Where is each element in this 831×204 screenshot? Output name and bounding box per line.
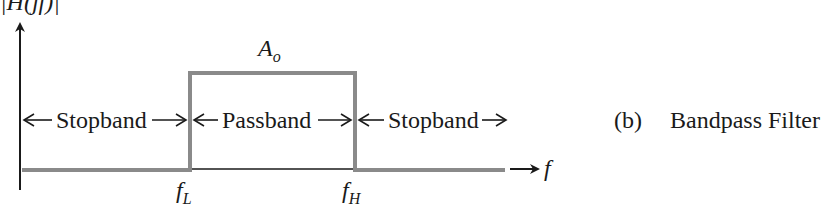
caption-tag: (b) <box>614 108 642 132</box>
diagram-canvas <box>0 0 831 204</box>
amplitude-label: Ao <box>258 36 281 60</box>
amplitude-main: A <box>258 35 273 61</box>
y-axis-label: |H(jf)| <box>0 0 60 14</box>
cutoff-high-label: fH <box>342 178 360 202</box>
amplitude-sub: o <box>273 48 281 65</box>
stopband-low-label: Stopband <box>56 108 147 132</box>
cutoff-low-sub: L <box>183 190 192 204</box>
cutoff-low-main: f <box>176 177 183 203</box>
cutoff-low-label: fL <box>176 178 192 202</box>
passband-label: Passband <box>222 108 311 132</box>
caption-title: Bandpass Filter <box>670 108 820 132</box>
stopband-high-label: Stopband <box>388 108 479 132</box>
x-axis-label: f <box>544 156 551 180</box>
cutoff-high-sub: H <box>349 190 361 204</box>
cutoff-high-main: f <box>342 177 349 203</box>
